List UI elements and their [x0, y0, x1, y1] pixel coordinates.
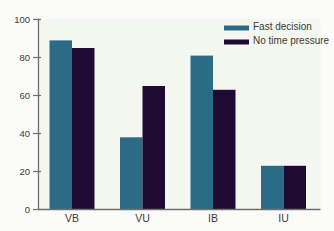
y-tick-label: 0 [25, 204, 30, 215]
grouped-bar-chart: 020406080100VBVUIBIUFast decisionNo time… [0, 0, 334, 231]
bar-ib-no-time-pressure [213, 90, 236, 210]
x-category-label: VB [65, 212, 79, 224]
x-category-label: IB [208, 212, 218, 224]
y-tick-label: 100 [14, 14, 30, 25]
bar-vb-no-time-pressure [72, 48, 95, 210]
legend-label-no-time-pressure: No time pressure [253, 35, 330, 46]
legend-label-fast-decision: Fast decision [253, 21, 312, 32]
legend-swatch-fast-decision [224, 26, 249, 31]
bar-vu-no-time-pressure [143, 86, 166, 210]
bar-ib-fast-decision [191, 56, 214, 210]
x-category-label: IU [278, 212, 289, 224]
bar-vu-fast-decision [120, 137, 143, 209]
bar-chart-figure: 020406080100VBVUIBIUFast decisionNo time… [0, 0, 334, 231]
bar-iu-no-time-pressure [284, 166, 307, 210]
y-tick-label: 60 [19, 90, 30, 101]
bar-iu-fast-decision [261, 166, 284, 210]
x-category-label: VU [135, 212, 150, 224]
legend-swatch-no-time-pressure [224, 40, 249, 45]
y-tick-label: 80 [19, 52, 30, 63]
bar-vb-fast-decision [50, 40, 73, 209]
y-tick-label: 40 [19, 128, 30, 139]
y-tick-label: 20 [19, 166, 30, 177]
